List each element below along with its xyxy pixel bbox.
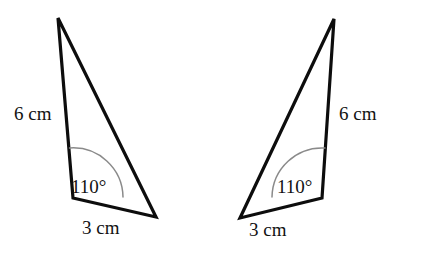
left-triangle-group: 6 cm 110° 3 cm bbox=[14, 18, 156, 238]
left-triangle-angle-110-label: 110° bbox=[71, 176, 106, 197]
left-triangle-side-6cm-label: 6 cm bbox=[14, 103, 52, 124]
triangles-diagram: 6 cm 110° 3 cm 6 cm 110° 3 cm bbox=[0, 0, 430, 267]
right-triangle-side-6cm-label: 6 cm bbox=[339, 103, 377, 124]
right-triangle-side-3cm-label: 3 cm bbox=[249, 219, 287, 240]
right-triangle-group: 6 cm 110° 3 cm bbox=[240, 19, 377, 240]
figure-canvas: 6 cm 110° 3 cm 6 cm 110° 3 cm bbox=[0, 0, 430, 267]
right-triangle-angle-110-label: 110° bbox=[277, 176, 312, 197]
left-triangle-side-3cm-label: 3 cm bbox=[82, 217, 120, 238]
